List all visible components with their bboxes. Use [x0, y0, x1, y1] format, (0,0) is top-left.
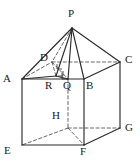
vertex-label-q: Q [63, 80, 71, 91]
vertex-label-p: P [68, 8, 74, 19]
vertex-label-b: B [86, 80, 93, 91]
solid-edge-group [22, 28, 120, 145]
vertex-label-g: G [125, 122, 133, 133]
geometry-figure: PABCDEFGHQR [0, 0, 140, 162]
edge-H-E [22, 128, 68, 145]
edge-F-G [84, 128, 120, 145]
vertex-label-f: F [80, 146, 86, 157]
vertex-label-r: R [45, 80, 52, 91]
vertex-label-a: A [3, 73, 11, 84]
vertex-label-d: D [40, 52, 48, 63]
vertex-label-c: C [125, 54, 132, 65]
edge-B-C [84, 62, 120, 79]
edge-H-F [68, 128, 84, 145]
vertex-label-e: E [4, 145, 11, 156]
vertex-label-h: H [52, 110, 60, 121]
